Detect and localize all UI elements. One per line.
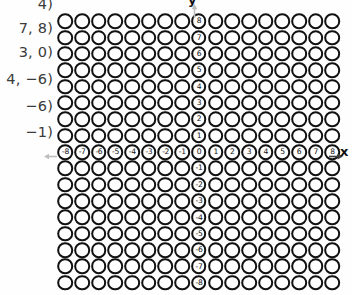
- grid-circle[interactable]: [241, 193, 258, 209]
- grid-circle[interactable]: [257, 62, 274, 78]
- grid-circle[interactable]: [157, 46, 174, 62]
- grid-circle[interactable]: [274, 95, 291, 111]
- grid-circle[interactable]: -5: [107, 144, 124, 160]
- grid-circle[interactable]: 3: [191, 95, 208, 111]
- grid-circle[interactable]: [207, 46, 224, 62]
- grid-circle[interactable]: [324, 111, 341, 127]
- grid-circle[interactable]: [107, 46, 124, 62]
- grid-circle[interactable]: [257, 275, 274, 291]
- grid-circle[interactable]: [157, 13, 174, 29]
- grid-circle[interactable]: [157, 62, 174, 78]
- grid-circle[interactable]: -5: [191, 225, 208, 241]
- grid-circle[interactable]: -7: [74, 144, 91, 160]
- grid-circle[interactable]: [107, 242, 124, 258]
- grid-circle[interactable]: [241, 176, 258, 192]
- grid-circle[interactable]: [257, 160, 274, 176]
- grid-circle[interactable]: -1: [174, 144, 191, 160]
- grid-circle[interactable]: -8: [191, 275, 208, 291]
- grid-circle[interactable]: [324, 95, 341, 111]
- grid-circle[interactable]: [57, 29, 74, 45]
- grid-circle[interactable]: [157, 242, 174, 258]
- grid-circle[interactable]: [74, 127, 91, 143]
- grid-circle[interactable]: [124, 95, 141, 111]
- grid-circle[interactable]: [291, 95, 308, 111]
- grid-circle[interactable]: [257, 242, 274, 258]
- grid-circle[interactable]: [174, 225, 191, 241]
- grid-circle[interactable]: [124, 209, 141, 225]
- grid-circle[interactable]: 5: [191, 62, 208, 78]
- grid-circle[interactable]: [274, 160, 291, 176]
- grid-circle[interactable]: [207, 127, 224, 143]
- grid-circle[interactable]: -4: [191, 209, 208, 225]
- grid-circle[interactable]: [207, 111, 224, 127]
- grid-circle[interactable]: [74, 95, 91, 111]
- grid-circle[interactable]: [157, 78, 174, 94]
- grid-circle[interactable]: [257, 78, 274, 94]
- grid-circle[interactable]: 1: [191, 127, 208, 143]
- grid-circle[interactable]: [324, 62, 341, 78]
- grid-circle[interactable]: [307, 13, 324, 29]
- grid-circle[interactable]: [174, 127, 191, 143]
- grid-circle[interactable]: [307, 29, 324, 45]
- grid-circle[interactable]: [140, 225, 157, 241]
- grid-circle[interactable]: [140, 29, 157, 45]
- grid-circle[interactable]: [174, 29, 191, 45]
- grid-circle[interactable]: [324, 258, 341, 274]
- grid-circle[interactable]: [241, 62, 258, 78]
- grid-circle[interactable]: [107, 193, 124, 209]
- grid-circle[interactable]: [224, 127, 241, 143]
- grid-circle[interactable]: [274, 127, 291, 143]
- grid-circle[interactable]: [57, 78, 74, 94]
- grid-circle[interactable]: -3: [191, 193, 208, 209]
- grid-circle[interactable]: [324, 225, 341, 241]
- grid-circle[interactable]: -1: [191, 160, 208, 176]
- grid-circle[interactable]: [157, 127, 174, 143]
- grid-circle[interactable]: [207, 209, 224, 225]
- grid-circle[interactable]: [274, 29, 291, 45]
- grid-circle[interactable]: [174, 242, 191, 258]
- grid-circle[interactable]: [274, 46, 291, 62]
- grid-circle[interactable]: [57, 95, 74, 111]
- grid-circle[interactable]: [140, 111, 157, 127]
- grid-circle[interactable]: [224, 160, 241, 176]
- grid-circle[interactable]: [207, 258, 224, 274]
- grid-circle[interactable]: [241, 111, 258, 127]
- grid-circle[interactable]: 2: [191, 111, 208, 127]
- grid-circle[interactable]: [324, 242, 341, 258]
- grid-circle[interactable]: [57, 46, 74, 62]
- grid-circle[interactable]: [274, 225, 291, 241]
- grid-circle[interactable]: [241, 13, 258, 29]
- grid-circle[interactable]: [140, 46, 157, 62]
- grid-circle[interactable]: [74, 258, 91, 274]
- grid-circle[interactable]: [140, 127, 157, 143]
- grid-circle[interactable]: [257, 29, 274, 45]
- grid-circle[interactable]: [124, 176, 141, 192]
- grid-circle[interactable]: [140, 275, 157, 291]
- grid-circle[interactable]: [157, 160, 174, 176]
- grid-circle[interactable]: [74, 225, 91, 241]
- grid-circle[interactable]: [224, 29, 241, 45]
- grid-circle[interactable]: [241, 160, 258, 176]
- grid-circle[interactable]: [324, 29, 341, 45]
- grid-circle[interactable]: [257, 46, 274, 62]
- grid-circle[interactable]: [291, 209, 308, 225]
- grid-circle[interactable]: 2: [224, 144, 241, 160]
- grid-circle[interactable]: [307, 209, 324, 225]
- grid-circle[interactable]: [74, 29, 91, 45]
- grid-circle[interactable]: [291, 29, 308, 45]
- grid-circle[interactable]: [124, 78, 141, 94]
- grid-circle[interactable]: [74, 242, 91, 258]
- grid-circle[interactable]: -4: [124, 144, 141, 160]
- grid-circle[interactable]: [74, 62, 91, 78]
- grid-circle[interactable]: [74, 160, 91, 176]
- grid-circle[interactable]: [124, 258, 141, 274]
- grid-circle[interactable]: [107, 258, 124, 274]
- grid-circle[interactable]: [307, 242, 324, 258]
- grid-circle[interactable]: [207, 62, 224, 78]
- grid-circle[interactable]: [241, 127, 258, 143]
- grid-circle[interactable]: [90, 127, 107, 143]
- grid-circle[interactable]: [90, 62, 107, 78]
- grid-circle[interactable]: [140, 209, 157, 225]
- grid-circle[interactable]: [224, 258, 241, 274]
- grid-circle[interactable]: [174, 176, 191, 192]
